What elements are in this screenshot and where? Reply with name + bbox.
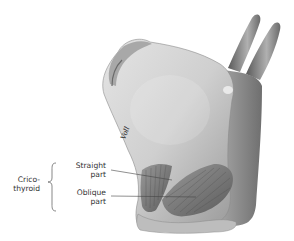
oblique-part-label-line2: part (60, 197, 106, 206)
larynx-illustration: Voll (0, 0, 294, 241)
cricothyroid-label-line1: Crico- (8, 175, 40, 184)
group-brace (48, 163, 56, 211)
straight-part-label: Straight part (60, 161, 106, 179)
oblique-part-label-line1: Oblique (60, 188, 106, 197)
oblique-part-label: Oblique part (60, 188, 106, 206)
straight-part-label-line2: part (60, 170, 106, 179)
cricothyroid-label: Crico- thyroid (8, 175, 40, 193)
anatomy-figure: Voll Crico- thyroid Straight part Obliqu… (0, 0, 294, 241)
cricothyroid-label-line2: thyroid (8, 184, 40, 193)
straight-part-label-line1: Straight (60, 161, 106, 170)
